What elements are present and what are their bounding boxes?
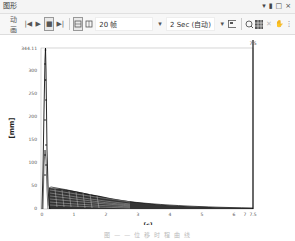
plot-frame	[41, 48, 253, 209]
x-tick-label: 6	[233, 212, 236, 217]
duration-value: 2 Sec (自动)	[170, 19, 211, 29]
duration-select[interactable]: 2 Sec (自动)	[166, 17, 215, 31]
chevron-down-icon[interactable]: ▾	[156, 18, 164, 30]
figure-caption: 图 — — 位 移 时 程 曲 线	[0, 230, 295, 239]
y-tick-label: 0	[34, 206, 37, 211]
data-series	[42, 48, 253, 209]
y-tick-label: 100	[28, 160, 37, 165]
y-tick-label: 200	[28, 114, 37, 119]
x-tick-label: 4	[169, 212, 172, 217]
window-titlebar: 图形 ▾ ▮ □ ×	[0, 0, 295, 14]
window-title: 图形	[3, 0, 17, 13]
x-tick-label: 5	[201, 212, 204, 217]
y-tick-label: 50	[31, 183, 37, 188]
play-button[interactable]: ▶	[34, 18, 42, 30]
first-frame-button[interactable]: |◀	[24, 18, 32, 30]
chart-svg: 7.5 344.11 300 250 200 150 100 50 0 [mm]…	[0, 35, 295, 225]
chevron-down-icon[interactable]: ▾	[218, 18, 226, 30]
divider	[241, 18, 242, 30]
export-icon[interactable]	[228, 18, 236, 30]
x-tick-label: 3	[137, 212, 140, 217]
zoom-icon[interactable]	[245, 18, 253, 30]
displacement-chart: 7.5 344.11 300 250 200 150 100 50 0 [mm]…	[0, 35, 295, 225]
pin-icon[interactable]: ▮	[269, 0, 273, 13]
animation-toolbar: 动画 |◀ ▶ ■ ▶| 20 帧 ▾ 2 Sec (自动) ▾ ✕ ✋ ⋮	[0, 14, 295, 35]
more-icon[interactable]: ⋮	[285, 18, 293, 30]
x-axis-label: [s]	[143, 221, 152, 225]
x-axis: 0 1 2 3 4 5 6 7 7.5	[41, 212, 257, 217]
x-tick-label: 1	[73, 212, 76, 217]
chart-settings-icon[interactable]	[85, 18, 93, 30]
frames-select[interactable]: 20 帧	[95, 17, 153, 31]
x-tick-label: 0	[41, 212, 44, 217]
animate-button[interactable]: 动画	[10, 18, 22, 30]
x-tick-label: 7	[244, 212, 247, 217]
pan-icon[interactable]: ✋	[275, 18, 283, 30]
x-tick-label: 2	[105, 212, 108, 217]
frames-value: 20 帧	[99, 19, 117, 29]
close-icon[interactable]: ×	[285, 0, 291, 13]
last-frame-button[interactable]: ▶|	[56, 18, 64, 30]
y-axis: 344.11 300 250 200 150 100 50 0	[21, 46, 37, 211]
layout-icon[interactable]	[73, 17, 83, 31]
y-axis-label: [mm]	[8, 118, 16, 139]
grid-icon[interactable]	[255, 18, 263, 30]
maximize-icon[interactable]: □	[276, 0, 283, 13]
divider	[69, 18, 70, 30]
cursor-icon[interactable]: ✕	[265, 18, 273, 30]
y-tick-label: 250	[28, 91, 37, 96]
stop-button[interactable]: ■	[44, 17, 54, 31]
x-tick-label: 7.5	[249, 212, 256, 217]
y-tick-label: 300	[28, 68, 37, 73]
cursor-time-label: 7.5	[249, 41, 256, 46]
window-controls: ▾ ▮ □ ×	[262, 0, 291, 13]
y-tick-label: 150	[28, 137, 37, 142]
y-tick-label: 344.11	[21, 46, 37, 51]
dropdown-icon[interactable]: ▾	[262, 0, 266, 13]
